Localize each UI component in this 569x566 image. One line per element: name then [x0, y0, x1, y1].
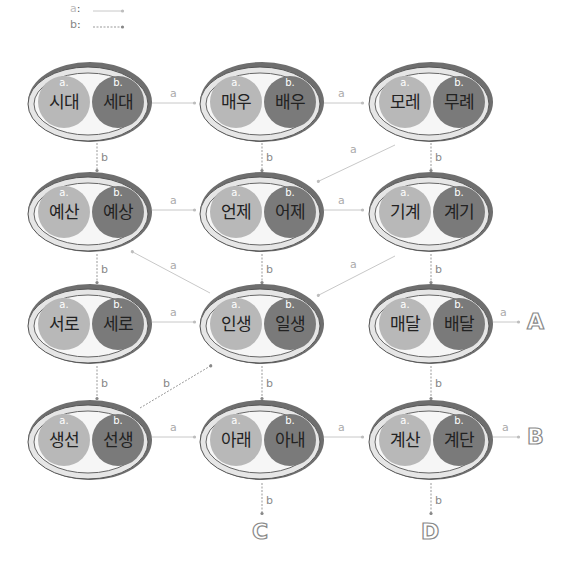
option-b: b.세대 — [92, 76, 144, 128]
edge-label-b: b — [435, 495, 442, 507]
edge-label-b: b — [101, 264, 108, 276]
option-b-word: 계기 — [433, 201, 485, 223]
option-a: a.계산 — [379, 414, 431, 466]
option-a-tag: a. — [210, 187, 262, 199]
option-b: b.배달 — [433, 298, 485, 350]
option-b-tag: b. — [433, 77, 485, 89]
edge-label-a: a — [338, 88, 345, 100]
option-a-word: 아래 — [210, 429, 262, 451]
option-a-tag: a. — [38, 77, 90, 89]
option-a-tag: a. — [38, 299, 90, 311]
option-a-word: 인생 — [210, 313, 262, 335]
option-b: b.일생 — [264, 298, 316, 350]
option-a: a.서로 — [38, 298, 90, 350]
option-b-word: 무례 — [433, 91, 485, 113]
option-a-word: 생선 — [38, 429, 90, 451]
node-r0c0: a.시대 b.세대 — [24, 60, 154, 144]
option-a-tag: a. — [38, 187, 90, 199]
node-r0c1: a.매우 b.배우 — [196, 60, 326, 144]
option-b: b.배우 — [264, 76, 316, 128]
edge-label-b: b — [266, 378, 273, 390]
option-b-tag: b. — [264, 77, 316, 89]
option-a: a.아래 — [210, 414, 262, 466]
option-b-tag: b. — [433, 187, 485, 199]
option-b-word: 아내 — [264, 429, 316, 451]
edge-label-a: a — [500, 307, 507, 319]
edge-label-a: a — [170, 260, 177, 272]
option-b: b.어제 — [264, 186, 316, 238]
option-a-word: 예산 — [38, 201, 90, 223]
edge-label-b: b — [266, 152, 273, 164]
option-a-word: 시대 — [38, 91, 90, 113]
edge-label-a: a — [338, 195, 345, 207]
terminal-A: A — [527, 310, 544, 334]
option-b-word: 배달 — [433, 313, 485, 335]
terminal-D: D — [421, 520, 439, 544]
option-a-tag: a. — [210, 77, 262, 89]
node-r2c1: a.인생 b.일생 — [196, 282, 326, 366]
option-b-word: 일생 — [264, 313, 316, 335]
option-b-tag: b. — [433, 299, 485, 311]
option-a: a.언제 — [210, 186, 262, 238]
edge-label-a: a — [170, 307, 177, 319]
option-a: a.생선 — [38, 414, 90, 466]
edge-label-b: b — [266, 264, 273, 276]
option-b-tag: b. — [92, 77, 144, 89]
edge-label-b: b — [435, 152, 442, 164]
option-a-tag: a. — [379, 77, 431, 89]
edge-label-b: b — [435, 264, 442, 276]
option-b-tag: b. — [92, 299, 144, 311]
node-r3c1: a.아래 b.아내 — [196, 398, 326, 482]
terminal-C: C — [252, 520, 268, 544]
edge-label-b: b — [266, 495, 273, 507]
edge-label-a: a — [170, 422, 177, 434]
option-a-word: 서로 — [38, 313, 90, 335]
option-b: b.예상 — [92, 186, 144, 238]
option-b-word: 배우 — [264, 91, 316, 113]
option-b-word: 예상 — [92, 201, 144, 223]
option-a-word: 매달 — [379, 313, 431, 335]
option-b-word: 세로 — [92, 313, 144, 335]
option-a: a.매우 — [210, 76, 262, 128]
option-a: a.시대 — [38, 76, 90, 128]
terminal-B: B — [527, 425, 544, 449]
option-a-word: 언제 — [210, 201, 262, 223]
option-a-tag: a. — [38, 415, 90, 427]
node-r3c2: a.계산 b.계단 — [365, 398, 495, 482]
edge-label-a: a — [170, 195, 177, 207]
option-b-tag: b. — [92, 187, 144, 199]
node-r2c0: a.서로 b.세로 — [24, 282, 154, 366]
option-b-word: 계단 — [433, 429, 485, 451]
option-a: a.기계 — [379, 186, 431, 238]
option-b-tag: b. — [264, 299, 316, 311]
edge-label-b: b — [101, 378, 108, 390]
option-a-tag: a. — [210, 415, 262, 427]
option-a-tag: a. — [210, 299, 262, 311]
option-a: a.인생 — [210, 298, 262, 350]
node-r2c2: a.매달 b.배달 — [365, 282, 495, 366]
edge-label-a: a — [350, 144, 357, 156]
option-b: b.세로 — [92, 298, 144, 350]
option-a-word: 기계 — [379, 201, 431, 223]
option-a: a.매달 — [379, 298, 431, 350]
option-a-word: 계산 — [379, 429, 431, 451]
option-b: b.아내 — [264, 414, 316, 466]
edge-label-b: b — [163, 378, 170, 390]
option-b: b.계기 — [433, 186, 485, 238]
option-a: a.예산 — [38, 186, 90, 238]
option-b-tag: b. — [433, 415, 485, 427]
word-maze-diagram: a: b: — [0, 0, 569, 566]
option-b: b.선생 — [92, 414, 144, 466]
edge-label-a: a — [350, 259, 357, 271]
edge-label-a: a — [170, 88, 177, 100]
edge-label-a: a — [502, 422, 509, 434]
option-b: b.계단 — [433, 414, 485, 466]
edge-label-b: b — [435, 378, 442, 390]
option-a-tag: a. — [379, 187, 431, 199]
node-r1c2: a.기계 b.계기 — [365, 170, 495, 254]
option-b-word: 어제 — [264, 201, 316, 223]
edge-label-a: a — [338, 422, 345, 434]
option-a-word: 모레 — [379, 91, 431, 113]
option-a-tag: a. — [379, 415, 431, 427]
node-r1c1: a.언제 b.어제 — [196, 170, 326, 254]
